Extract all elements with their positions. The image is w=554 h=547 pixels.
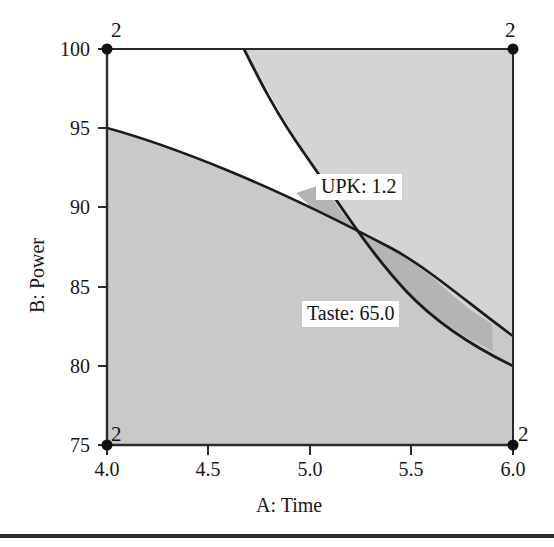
y-tick-label-90: 90	[40, 197, 90, 217]
x-tick-label-4-0: 4.0	[77, 459, 137, 479]
y-axis-title: B: Power	[26, 238, 49, 313]
x-tick-label-4-5: 4.5	[178, 459, 238, 479]
x-tick-label-5-5: 5.5	[381, 459, 441, 479]
upk-contour-label: UPK: 1.2	[316, 174, 402, 200]
x-tick-label-6-0: 6.0	[483, 459, 543, 479]
bottom-divider	[0, 534, 554, 538]
taste-contour-label: Taste: 65.0	[302, 301, 399, 327]
design-point-marker-top-left	[102, 44, 113, 55]
y-tick-label-80: 80	[40, 356, 90, 376]
x-axis-title: A: Time	[256, 494, 322, 517]
design-point-marker-bottom-right	[508, 440, 519, 451]
x-tick-marks	[107, 445, 513, 455]
design-point-label-top-left: 2	[111, 20, 122, 41]
design-point-label-bottom-right: 2	[518, 424, 529, 445]
design-point-marker-top-right	[508, 44, 519, 55]
y-tick-label-75: 75	[40, 435, 90, 455]
y-tick-marks	[98, 49, 107, 445]
y-tick-label-95: 95	[40, 118, 90, 138]
design-point-label-bottom-left: 2	[111, 424, 122, 445]
overlay-plot-figure: 100 95 90 85 80 75 4.0 4.5 5.0 5.5 6.0 2…	[0, 0, 554, 547]
y-tick-label-100: 100	[40, 39, 90, 59]
design-point-label-top-right: 2	[505, 20, 516, 41]
x-tick-label-5-0: 5.0	[280, 459, 340, 479]
